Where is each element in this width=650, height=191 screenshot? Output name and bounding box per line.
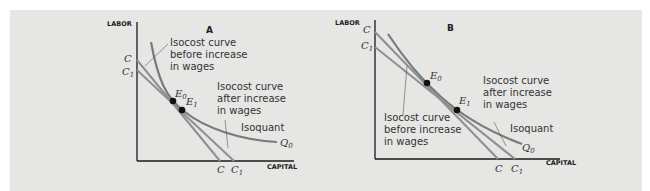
isocost-before-line [137,60,220,161]
label-c-axis: C [495,163,503,174]
panel-title: A [206,25,213,35]
annotation-before-3: in wages [384,136,428,147]
label-e1: E1 [458,95,471,108]
panel-a: LABOR A C C1 E0 E1 C C1 Q0 CAPITAL Isoco… [107,20,297,177]
annotation-isoquant: Isoquant [510,123,553,134]
annotation-after-1: Isocost curve [217,81,283,92]
annotation-before-1: Isocost curve [170,37,236,48]
label-c: C [124,53,132,64]
annotation-before-2: before increase [170,49,248,60]
label-e0: E0 [429,70,442,83]
label-q0: Q0 [522,142,535,155]
panel-title: B [447,23,454,33]
annotation-before-3: in wages [170,61,214,72]
label-q0: Q0 [280,137,293,150]
annotation-after-1: Isocost curve [483,75,549,86]
isocost-diagram: LABOR A C C1 E0 E1 C C1 Q0 CAPITAL Isoco… [0,0,650,191]
panel-b: LABOR B C C1 E0 E1 C C1 Q0 CAPITAL Isoco… [335,19,576,176]
label-c1-axis: C1 [511,163,523,176]
x-axis-label: CAPITAL [267,163,297,171]
label-e1: E1 [185,96,198,109]
annotation-before-2: before increase [384,124,462,135]
label-c1-axis: C1 [231,164,243,177]
y-axis-label: LABOR [107,20,132,28]
point-e1 [454,107,461,114]
annotation-after-3: in wages [217,105,261,116]
leader-line [403,66,407,115]
y-axis-label: LABOR [335,19,360,27]
label-c: C [363,24,371,35]
annotation-isoquant: Isoquant [241,122,284,133]
label-c1: C1 [361,40,373,53]
annotation-after-3: in wages [483,99,527,110]
annotation-before-1: Isocost curve [384,112,450,123]
x-axis-label: CAPITAL [546,159,576,167]
annotation-after-2: after increase [217,93,286,104]
label-c1: C1 [122,66,134,79]
label-c-axis: C [217,164,225,175]
point-e1 [179,107,186,114]
annotation-after-2: after increase [483,87,552,98]
